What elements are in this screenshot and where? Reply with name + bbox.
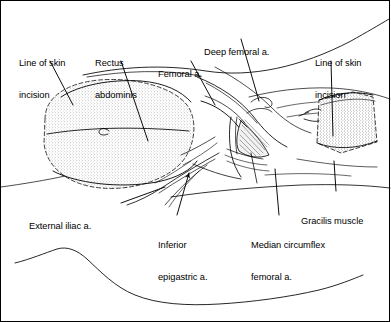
label-text-line1: Line of skin <box>315 58 361 69</box>
skin-curl-2 <box>247 108 272 113</box>
label-text-line2: abdominis <box>95 90 137 101</box>
gracilis-muscle-belly <box>237 121 269 157</box>
label-line-of-skin-incision-right: Line of skin incision <box>315 37 361 122</box>
label-text-line2: femoral a. <box>251 272 325 283</box>
label-line-of-skin-incision-left: Line of skin incision <box>19 37 65 122</box>
label-femoral-artery: Femoral a. <box>158 48 202 101</box>
leader-gracilis-muscle <box>334 161 336 191</box>
label-text-line2: epigastric a. <box>158 272 207 283</box>
label-deep-femoral-artery: Deep femoral a. <box>204 26 269 79</box>
leader-median-circumflex-femoral-artery <box>275 169 279 215</box>
label-external-iliac-artery: External iliac a. <box>29 200 91 253</box>
label-text-line1: Line of skin <box>19 58 65 69</box>
skin-curl-1 <box>251 97 272 107</box>
label-text-line1: Deep femoral a. <box>204 47 269 58</box>
thigh-lower-contour-2 <box>265 174 351 176</box>
left-lower-contour <box>1 176 65 187</box>
label-text-line1: Rectus <box>95 58 137 69</box>
label-text-line2: incision <box>19 90 65 101</box>
label-inferior-epigastric-artery: Inferior epigastric a. <box>158 219 207 304</box>
label-text-line2: incision <box>315 90 361 101</box>
thigh-contour-mid <box>297 159 377 167</box>
label-gracilis-muscle: Gracilis muscle <box>301 195 363 248</box>
leader-external-iliac-artery <box>121 187 165 203</box>
label-text-line1: External iliac a. <box>29 221 91 232</box>
label-rectus-abdominis: Rectus abdominis <box>95 37 137 122</box>
label-text-line1: Inferior <box>158 240 207 251</box>
label-text-line1: Femoral a. <box>158 69 202 80</box>
label-text-line1: Gracilis muscle <box>301 216 363 227</box>
flap-lower-extension <box>193 164 241 179</box>
